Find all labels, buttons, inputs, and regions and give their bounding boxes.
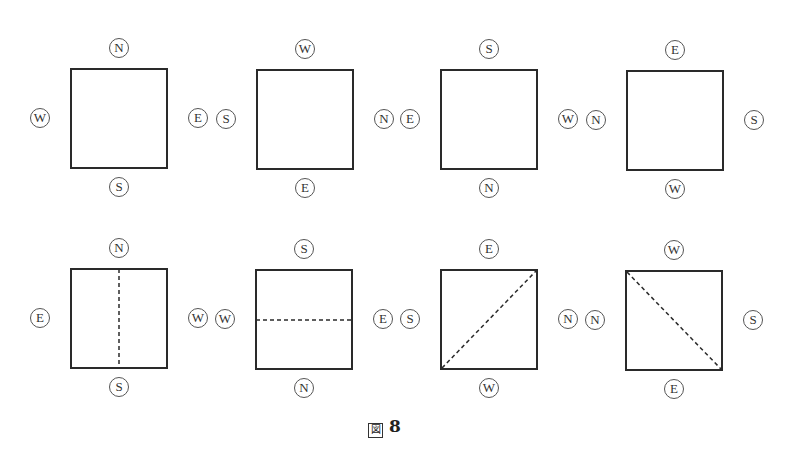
direction-label-right: N — [558, 309, 578, 329]
direction-label-right: E — [188, 108, 208, 128]
direction-label-top: N — [109, 38, 129, 58]
direction-label-left: S — [400, 309, 420, 329]
fold-line-vertical — [70, 268, 168, 369]
square-panel-2: W S N E — [256, 69, 354, 170]
direction-label-right: E — [373, 309, 393, 329]
direction-label-bottom: S — [109, 177, 129, 197]
direction-label-bottom: S — [109, 377, 129, 397]
direction-label-top: E — [479, 239, 499, 259]
square-outline — [440, 69, 538, 170]
figure-caption-char: 図 — [368, 423, 383, 438]
direction-label-top: S — [294, 239, 314, 259]
figure-caption-number: 8 — [389, 416, 401, 436]
square-panel-6: S W E N — [255, 269, 353, 370]
direction-label-top: E — [665, 40, 685, 60]
direction-label-bottom: E — [295, 178, 315, 198]
square-panel-7: E S N W — [440, 269, 538, 370]
direction-label-left: W — [30, 108, 50, 128]
square-panel-1: N W E S — [70, 68, 168, 169]
direction-label-left: S — [216, 109, 236, 129]
direction-label-top: S — [479, 39, 499, 59]
square-panel-4: E N S W — [626, 70, 724, 171]
square-outline — [626, 70, 724, 171]
square-panel-8: W N S E — [625, 270, 723, 371]
direction-label-bottom: N — [294, 378, 314, 398]
direction-label-left: W — [215, 309, 235, 329]
direction-label-left: N — [585, 310, 605, 330]
direction-label-top: N — [109, 238, 129, 258]
direction-label-right: W — [188, 308, 208, 328]
direction-label-bottom: E — [664, 379, 684, 399]
square-outline — [70, 68, 168, 169]
fold-line-diagonal — [440, 269, 538, 370]
direction-label-right: W — [558, 109, 578, 129]
direction-label-bottom: W — [665, 179, 685, 199]
square-panel-5: N E W S — [70, 268, 168, 369]
square-panel-3: S E W N — [440, 69, 538, 170]
direction-label-left: E — [30, 308, 50, 328]
figure-caption: 図8 — [368, 416, 401, 438]
direction-label-top: W — [295, 39, 315, 59]
fold-line-diagonal — [625, 270, 723, 371]
direction-label-bottom: W — [479, 378, 499, 398]
direction-label-top: W — [664, 240, 684, 260]
direction-label-right: S — [743, 310, 763, 330]
direction-label-bottom: N — [479, 178, 499, 198]
direction-label-right: N — [374, 109, 394, 129]
direction-label-right: S — [744, 110, 764, 130]
direction-label-left: E — [400, 109, 420, 129]
direction-label-left: N — [586, 110, 606, 130]
fold-line-horizontal — [255, 269, 353, 370]
square-outline — [256, 69, 354, 170]
